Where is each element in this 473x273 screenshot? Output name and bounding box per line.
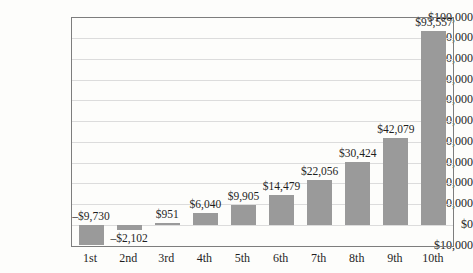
gridline [72,80,453,81]
bar [269,195,294,225]
bar-value-label: $951 [156,208,179,221]
bar [345,162,370,225]
bar [79,225,104,245]
x-axis-tick-label: 5th [222,251,262,265]
gridline [72,100,453,101]
bar-value-label: $22,056 [301,165,338,178]
bar [421,31,446,225]
x-axis-tick-label: 6th [261,251,301,265]
x-axis-tick-label: 9th [375,251,415,265]
bar [117,225,142,229]
bar [307,180,332,226]
plot-area: –$9,730–$2,102$951$6,040$9,905$14,479$22… [71,17,454,247]
gridline [72,59,453,60]
bar [383,138,408,225]
gridline [72,38,453,39]
gridline [72,121,453,122]
x-axis-tick-label: 7th [299,251,339,265]
bar-value-label: $42,079 [377,123,414,136]
x-axis-tick-label: 4th [184,251,224,265]
bar-value-label: $6,040 [190,198,222,211]
bar-value-label: –$9,730 [72,210,109,223]
bar-value-label: $30,424 [339,147,376,160]
x-axis-tick-label: 3rd [146,251,186,265]
bar-value-label: –$2,102 [110,232,147,245]
x-axis-tick-label: 1st [70,251,110,265]
bar [155,223,180,225]
bar [231,205,256,226]
bar-chart-figure: $100,000$90,000$80,000$70,000$60,000$50,… [0,0,473,273]
bar-value-label: $93,557 [415,16,452,29]
bar [193,213,218,226]
bar-value-label: $14,479 [263,180,300,193]
x-axis-tick-label: 10th [413,251,453,265]
bar-value-label: $9,905 [228,190,260,203]
x-axis-tick-label: 8th [337,251,377,265]
x-axis-tick-label: 2nd [108,251,148,265]
